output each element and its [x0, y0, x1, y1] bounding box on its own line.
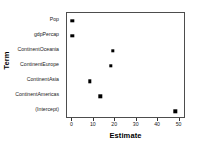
x-tick-label: 0: [70, 122, 73, 127]
y-axis-tick-labels: PopgdpPercapContinentOceaniaContinentEur…: [12, 12, 62, 118]
x-axis-title: Estimate: [66, 131, 185, 140]
x-tick-label: 40: [154, 122, 160, 127]
chart-root: Term PopgdpPercapContinentOceaniaContine…: [0, 0, 197, 152]
x-tick-label: 30: [133, 122, 139, 127]
data-point: [71, 34, 74, 37]
y-axis-title-text: Term: [2, 51, 11, 69]
data-point: [111, 49, 114, 52]
data-point: [109, 64, 112, 67]
data-point: [88, 79, 91, 82]
y-tick-label: gdpPercap: [34, 32, 59, 37]
x-tick-label: 20: [111, 122, 117, 127]
x-tick-label: 10: [90, 122, 96, 127]
data-point: [99, 95, 102, 98]
y-axis-title: Term: [0, 0, 12, 120]
x-tick-label: 50: [176, 122, 182, 127]
y-tick-label: (Intercept): [35, 108, 59, 113]
y-tick-label: ContinentEurope: [20, 62, 59, 67]
y-tick-label: Pop: [50, 17, 59, 22]
y-tick-label: ContinentOceania: [17, 47, 59, 52]
y-tick-label: ContinentAmericas: [15, 93, 59, 98]
data-point: [71, 19, 74, 22]
y-tick-label: ContinentAsia: [27, 78, 59, 83]
x-axis-tick-labels: 01020304050: [66, 118, 185, 130]
data-point: [174, 110, 177, 113]
plot-panel: [66, 12, 185, 118]
